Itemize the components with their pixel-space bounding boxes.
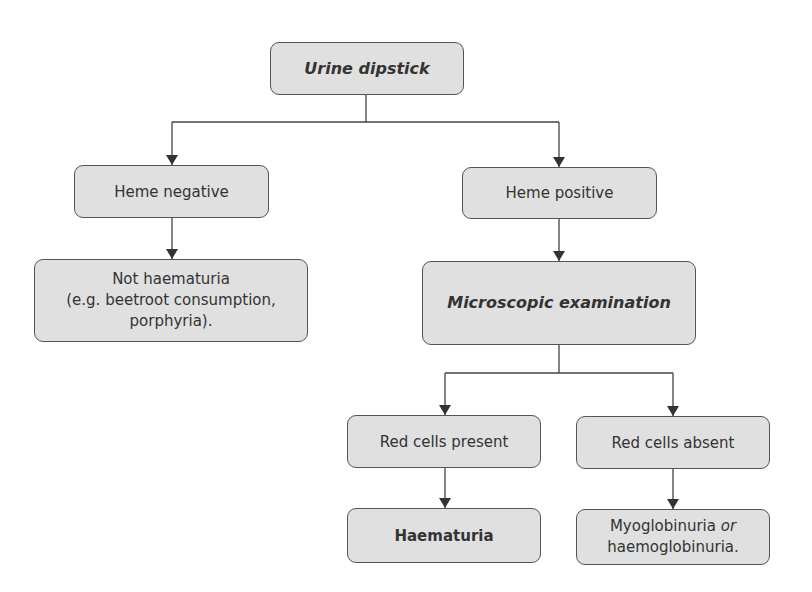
node-red-cells-present: Red cells present — [347, 415, 541, 468]
arrow-head — [166, 155, 178, 165]
node-label-text: Myoglobinuria — [610, 517, 721, 535]
node-label: Red cells absent — [612, 433, 735, 453]
node-label: Microscopic examination — [447, 293, 671, 313]
node-myoglobinuria: Myoglobinuria or haemoglobinuria. — [576, 509, 770, 565]
node-label-line: porphyria). — [130, 311, 213, 332]
node-label-emphasis: or — [721, 517, 736, 535]
node-microscopic-examination: Microscopic examination — [422, 261, 696, 345]
node-label-line: Myoglobinuria or — [610, 516, 736, 537]
node-label: Heme positive — [506, 183, 614, 203]
node-label: Red cells present — [380, 432, 509, 452]
node-urine-dipstick: Urine dipstick — [270, 42, 464, 95]
node-heme-positive: Heme positive — [462, 167, 657, 219]
node-red-cells-absent: Red cells absent — [576, 416, 770, 469]
node-label-line: Not haematuria — [112, 269, 230, 290]
node-label: Haematuria — [394, 526, 493, 546]
node-haematuria: Haematuria — [347, 508, 541, 563]
node-heme-negative: Heme negative — [74, 165, 269, 218]
node-label-line: (e.g. beetroot consumption, — [66, 290, 276, 311]
node-label-line: haemoglobinuria. — [607, 537, 739, 558]
node-label: Urine dipstick — [304, 59, 429, 79]
node-label: Heme negative — [114, 182, 229, 202]
node-not-haematuria: Not haematuria (e.g. beetroot consumptio… — [34, 259, 308, 342]
